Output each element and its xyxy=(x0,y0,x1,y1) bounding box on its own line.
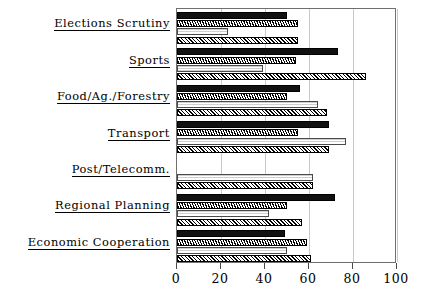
gridline-100 xyxy=(397,9,398,262)
axis-tick-0 xyxy=(176,263,177,269)
bar-group xyxy=(177,158,395,190)
bar-series-2 xyxy=(177,129,298,136)
category-label: Food/Ag./Forestry xyxy=(57,90,170,104)
bar-series-1 xyxy=(177,48,338,55)
bar-series-1 xyxy=(177,85,300,92)
bar-series-3 xyxy=(177,247,287,254)
bar-series-4 xyxy=(177,73,366,80)
axis-tick-80 xyxy=(352,263,353,269)
bar-series-2 xyxy=(177,57,296,64)
bar-series-4 xyxy=(177,255,311,262)
bar-series-4 xyxy=(177,219,302,226)
bar-series-3 xyxy=(177,210,269,217)
axis-tick-60 xyxy=(308,263,309,269)
bar-group xyxy=(177,12,395,44)
bar-series-1 xyxy=(177,230,285,237)
category-label-column: Elections ScrutinySportsFood/Ag./Forestr… xyxy=(0,0,176,263)
axis-tick-label: 80 xyxy=(343,271,360,286)
axis-tick-label: 0 xyxy=(172,271,181,286)
category-label: Post/Telecomm. xyxy=(72,163,170,177)
bar-series-2 xyxy=(177,20,298,27)
axis-tick-100 xyxy=(396,263,397,269)
bar-series-3 xyxy=(177,138,346,145)
category-label: Regional Planning xyxy=(55,199,170,213)
category-label: Elections Scrutiny xyxy=(54,17,170,31)
category-label: Sports xyxy=(129,54,170,68)
bar-group xyxy=(177,121,395,153)
bar-series-4 xyxy=(177,182,313,189)
bar-series-3 xyxy=(177,101,318,108)
bar-series-2 xyxy=(177,93,287,100)
bar-series-3 xyxy=(177,174,313,181)
bar-series-4 xyxy=(177,37,298,44)
bar-chart: Elections ScrutinySportsFood/Ag./Forestr… xyxy=(0,0,422,299)
bar-group xyxy=(177,194,395,226)
plot-area xyxy=(176,8,396,263)
axis-tick-label: 60 xyxy=(299,271,316,286)
category-label: Economic Cooperation xyxy=(28,236,170,250)
bar-series-1 xyxy=(177,12,287,19)
bar-series-1 xyxy=(177,194,335,201)
category-label: Transport xyxy=(108,127,170,141)
bar-series-1 xyxy=(177,121,329,128)
axis-tick-label: 40 xyxy=(255,271,272,286)
bar-group xyxy=(177,230,395,262)
bar-series-4 xyxy=(177,109,327,116)
axis-tick-40 xyxy=(264,263,265,269)
axis-tick-label: 20 xyxy=(211,271,228,286)
bar-series-2 xyxy=(177,239,307,246)
axis-tick-label: 100 xyxy=(383,271,409,286)
bar-series-3 xyxy=(177,65,263,72)
x-axis: 020406080100 xyxy=(176,263,396,299)
bar-group xyxy=(177,85,395,117)
bar-series-2 xyxy=(177,202,287,209)
bar-series-4 xyxy=(177,146,329,153)
bar-group xyxy=(177,48,395,80)
bar-series-3 xyxy=(177,28,228,35)
axis-tick-20 xyxy=(220,263,221,269)
